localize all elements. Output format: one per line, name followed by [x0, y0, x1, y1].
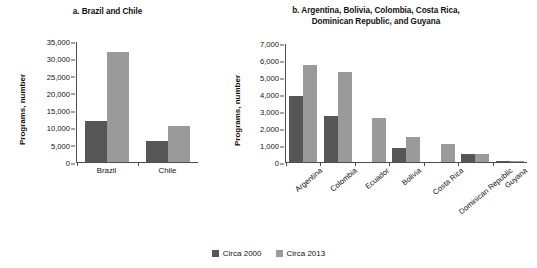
- legend-swatch-icon: [212, 250, 219, 257]
- panel-b-x-labels: ArgentinaColombiaEcuadorBoliviaCosta Ric…: [285, 163, 527, 223]
- y-tick-mark: [280, 95, 284, 96]
- y-tick-mark: [280, 129, 284, 130]
- x-tick-label-text: Guyana: [503, 166, 529, 190]
- chart-panel-b: b. Argentina, Bolivia, Colombia, Costa R…: [215, 0, 537, 232]
- y-tick-mark: [71, 163, 75, 164]
- y-tick-label: 5,000: [260, 74, 279, 83]
- x-tick-label: Costa Rica: [423, 163, 458, 223]
- y-tick-mark: [280, 112, 284, 113]
- y-tick-mark: [280, 61, 284, 62]
- panel-a-plot-area: [76, 42, 198, 163]
- legend-label: Circa 2000: [223, 249, 262, 258]
- panel-a-plot: Programs, number 05,00010,00015,00020,00…: [18, 42, 200, 177]
- x-tick-label: Argentina: [285, 163, 320, 223]
- y-tick-label: 20,000: [47, 89, 70, 98]
- panel-b-axis-area: 01,0002,0003,0004,0005,0006,0007,000 Arg…: [247, 44, 529, 177]
- bar: [510, 161, 524, 162]
- bar: [475, 154, 489, 162]
- bar: [85, 121, 107, 162]
- chart-legend: Circa 2000Circa 2013: [0, 249, 537, 258]
- bar-group: [138, 42, 199, 162]
- y-tick-label: 2,000: [260, 125, 279, 134]
- y-tick-label: 7,000: [260, 40, 279, 49]
- x-tick-label: Brazil: [76, 163, 137, 177]
- y-tick-mark: [280, 44, 284, 45]
- panel-b-title-line1: b. Argentina, Bolivia, Colombia, Costa R…: [215, 5, 537, 16]
- bar-group: [389, 44, 423, 162]
- bar-group: [77, 42, 138, 162]
- x-tick-label: Colombia: [320, 163, 355, 223]
- panel-b-plot-area: [285, 44, 527, 163]
- bar-group: [320, 44, 354, 162]
- legend-item: Circa 2013: [276, 249, 326, 258]
- y-tick-label: 0: [275, 159, 279, 168]
- y-tick-label: 5,000: [51, 141, 70, 150]
- bar-group: [424, 44, 458, 162]
- bar: [107, 52, 129, 162]
- y-tick-label: 1,000: [260, 142, 279, 151]
- y-tick-label: 25,000: [47, 72, 70, 81]
- bar: [168, 126, 190, 162]
- y-tick-label: 15,000: [47, 107, 70, 116]
- y-tick-label: 35,000: [47, 38, 70, 47]
- panel-a-bar-groups: [77, 42, 198, 162]
- panel-a-x-labels: BrazilChile: [76, 163, 198, 177]
- panel-b-title-line2: Dominican Republic, and Guyana: [215, 16, 537, 27]
- y-tick-label: 4,000: [260, 91, 279, 100]
- panel-b-bar-groups: [286, 44, 527, 162]
- y-tick-mark: [71, 111, 75, 112]
- panel-a-title: a. Brazil and Chile: [0, 6, 215, 17]
- bar: [372, 118, 386, 162]
- y-tick-label: 10,000: [47, 124, 70, 133]
- y-tick-label: 6,000: [260, 57, 279, 66]
- y-tick-label: 0: [66, 159, 70, 168]
- panel-a-y-axis-label: Programs, number: [16, 42, 30, 177]
- legend-swatch-icon: [276, 250, 283, 257]
- bar-group: [355, 44, 389, 162]
- y-tick-mark: [71, 42, 75, 43]
- figure: a. Brazil and Chile Programs, number 05,…: [0, 0, 537, 268]
- y-tick-mark: [71, 94, 75, 95]
- y-tick-mark: [71, 59, 75, 60]
- y-tick-mark: [280, 146, 284, 147]
- y-tick-label: 30,000: [47, 55, 70, 64]
- x-tick-label: Ecuador: [354, 163, 389, 223]
- bar-group: [458, 44, 492, 162]
- bar: [392, 148, 406, 162]
- bar: [303, 65, 317, 162]
- x-tick-label-text: Ecuador: [364, 166, 391, 191]
- legend-item: Circa 2000: [212, 249, 262, 258]
- y-tick-mark: [280, 163, 284, 164]
- bar: [496, 161, 510, 162]
- legend-label: Circa 2013: [287, 249, 326, 258]
- y-tick-label: 3,000: [260, 108, 279, 117]
- bar: [289, 96, 303, 162]
- y-tick-mark: [71, 146, 75, 147]
- bar: [146, 141, 168, 162]
- bar: [461, 154, 475, 162]
- panel-b-title: b. Argentina, Bolivia, Colombia, Costa R…: [215, 5, 537, 27]
- y-tick-mark: [71, 128, 75, 129]
- bar-group: [493, 44, 527, 162]
- bar: [441, 144, 455, 162]
- panel-a-axis-area: 05,00010,00015,00020,00025,00030,00035,0…: [32, 42, 200, 177]
- chart-panel-a: a. Brazil and Chile Programs, number 05,…: [0, 0, 215, 232]
- x-tick-label: Guyana: [492, 163, 527, 223]
- bar-group: [286, 44, 320, 162]
- x-tick-label: Dominican Republic: [458, 163, 493, 223]
- panel-b-y-ticks: 01,0002,0003,0004,0005,0006,0007,000: [247, 44, 285, 163]
- x-tick-label-text: Bolivia: [400, 166, 423, 187]
- bar: [324, 116, 338, 162]
- y-tick-mark: [71, 77, 75, 78]
- panel-b-plot: Programs, number 01,0002,0003,0004,0005,…: [233, 44, 529, 177]
- y-tick-mark: [280, 78, 284, 79]
- panel-a-y-ticks: 05,00010,00015,00020,00025,00030,00035,0…: [32, 42, 76, 163]
- bar: [338, 72, 352, 162]
- x-tick-label: Chile: [137, 163, 198, 177]
- x-tick-label: Bolivia: [389, 163, 424, 223]
- bar: [406, 137, 420, 162]
- panel-b-y-axis-label: Programs, number: [231, 44, 245, 177]
